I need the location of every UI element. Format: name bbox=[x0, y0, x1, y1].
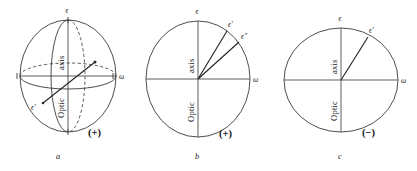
panel-b: ϵ ω ϵ' ϵ'' Optic axis (+) b bbox=[146, 7, 258, 161]
panel-b-label-ray-2: ϵ'' bbox=[241, 32, 248, 41]
panel-a-sign: (+) bbox=[88, 127, 101, 139]
panel-a-ray-node-upper bbox=[94, 61, 97, 64]
panel-b-axis-label: axis bbox=[186, 58, 196, 73]
panel-a-label-omega: ω bbox=[119, 72, 124, 81]
panel-c-axis-label: axis bbox=[329, 59, 339, 74]
panel-c-caption: c bbox=[338, 152, 342, 161]
panel-b-caption: b bbox=[195, 152, 199, 161]
panel-c-ray-epsilon-prime bbox=[341, 37, 368, 80]
panel-a-optic-label: Optic bbox=[56, 98, 66, 118]
figure-root: ϵ ω ϵ' Optic axis (+) a ϵ ω ϵ' ϵ'' Optic… bbox=[0, 0, 417, 171]
panel-a-label-epsilon: ϵ bbox=[66, 6, 70, 15]
panel-c-label-omega: ω bbox=[401, 76, 406, 85]
panel-c-label-ray-1: ϵ' bbox=[369, 26, 374, 35]
panel-c-optic-label: Optic bbox=[329, 101, 339, 121]
panel-c-sign: (−) bbox=[362, 127, 375, 139]
panel-b-label-epsilon: ϵ bbox=[196, 7, 200, 16]
panel-b-label-omega: ω bbox=[253, 75, 258, 84]
panel-a-label-epsilon-prime: ϵ' bbox=[31, 103, 36, 112]
indicatrix-figure: ϵ ω ϵ' Optic axis (+) a ϵ ω ϵ' ϵ'' Optic… bbox=[0, 0, 417, 171]
panel-a-ray-node-lower bbox=[42, 102, 45, 105]
panel-b-sign: (+) bbox=[219, 128, 232, 140]
panel-a-axis-label: axis bbox=[56, 55, 66, 70]
panel-b-optic-label: Optic bbox=[186, 102, 196, 122]
panel-b-ray-epsilon-double-prime bbox=[198, 42, 239, 79]
panel-a: ϵ ω ϵ' Optic axis (+) a bbox=[17, 6, 124, 161]
panel-a-caption: a bbox=[56, 152, 60, 161]
panel-c: ϵ ω ϵ' Optic axis (−) c bbox=[284, 14, 406, 161]
panel-b-ray-epsilon-prime bbox=[198, 31, 227, 79]
panel-c-label-epsilon: ϵ bbox=[339, 14, 343, 23]
panel-b-label-ray-1: ϵ' bbox=[228, 20, 233, 29]
